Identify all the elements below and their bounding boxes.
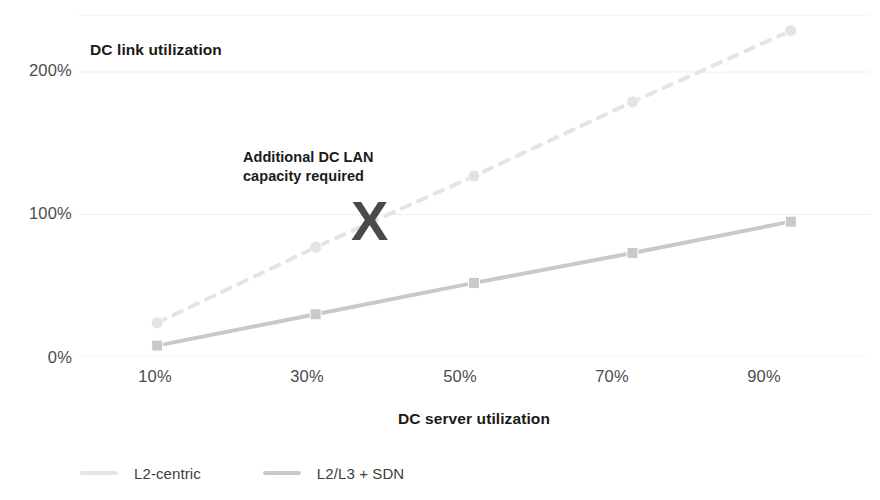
series-l2-l3-sdn: [152, 216, 797, 351]
legend-item-l2-centric[interactable]: L2-centric: [80, 465, 201, 482]
plot-svg: [78, 15, 870, 357]
legend-swatch-icon-l2-centric: [80, 471, 118, 475]
data-point-marker[interactable]: [627, 247, 638, 258]
annotation-text: Additional DC LAN capacity required: [243, 148, 403, 186]
legend-label-l2l3-sdn: L2/L3 + SDN: [317, 465, 404, 482]
data-point-marker[interactable]: [785, 216, 796, 227]
x-tick-4: 90%: [747, 368, 781, 385]
x-axis-title: DC server utilization: [78, 410, 870, 428]
data-point-marker[interactable]: [310, 241, 322, 253]
y-axis-labels: 0% 100% 200%: [0, 0, 72, 500]
x-axis-labels: 10% 30% 50% 70% 90%: [78, 368, 870, 394]
x-tick-0: 10%: [138, 368, 172, 385]
legend-label-l2-centric: L2-centric: [134, 465, 201, 482]
y-tick-200: 200%: [4, 62, 72, 79]
y-tick-0: 0%: [4, 349, 72, 366]
data-point-marker[interactable]: [151, 317, 163, 329]
data-point-marker[interactable]: [310, 309, 321, 320]
chart-legend: L2-centric L2/L3 + SDN: [80, 462, 466, 484]
chart-title: DC link utilization: [90, 41, 222, 59]
y-tick-100: 100%: [4, 205, 72, 222]
chart-container: 0% 100% 200% 10% 30% 50% 70% 90% DC link…: [0, 0, 880, 500]
data-point-marker[interactable]: [468, 170, 480, 182]
data-point-marker[interactable]: [469, 277, 480, 288]
annotation-line-2: capacity required: [243, 167, 403, 186]
x-tick-1: 30%: [290, 368, 324, 385]
annotation-x-marker-icon: X: [351, 193, 388, 249]
annotation-line-1: Additional DC LAN: [243, 148, 403, 167]
plot-area: [78, 15, 870, 357]
series-layer: [151, 25, 797, 351]
legend-item-l2l3-sdn[interactable]: L2/L3 + SDN: [263, 465, 404, 482]
data-point-marker[interactable]: [785, 25, 797, 37]
data-point-marker[interactable]: [626, 96, 638, 108]
legend-swatch-icon-l2l3-sdn: [263, 471, 301, 475]
data-point-marker[interactable]: [152, 340, 163, 351]
x-tick-3: 70%: [595, 368, 629, 385]
x-tick-2: 50%: [443, 368, 477, 385]
